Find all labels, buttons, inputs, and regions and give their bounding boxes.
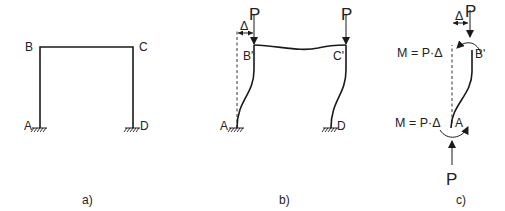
node-label-b: B — [25, 40, 33, 54]
node-label-d: D — [140, 119, 149, 133]
p-delta-diagram: B C A D a) P P Δ — [0, 0, 505, 211]
delta-label: Δ — [455, 9, 463, 23]
node-label-a: A — [455, 116, 463, 130]
caption-a: a) — [82, 193, 93, 207]
node-label-b-prime: B' — [475, 47, 485, 61]
panel-a: B C A D a) — [24, 40, 149, 207]
moment-label-bottom: M = P·Δ — [395, 116, 441, 130]
node-label-b-prime: B' — [243, 49, 253, 63]
node-label-a: A — [24, 119, 32, 133]
panel-b: P P Δ B' C' A D b) — [220, 5, 352, 207]
delta-label: Δ — [240, 19, 248, 33]
caption-c: c) — [456, 193, 466, 207]
moment-label-top: M = P·Δ — [397, 46, 443, 60]
load-label-bottom: P — [446, 170, 457, 189]
load-label-left: P — [249, 5, 260, 24]
node-label-a: A — [220, 119, 228, 133]
panel-c: P Δ M = P·Δ M = P·Δ P B' A c) — [395, 2, 485, 207]
fixed-support-d — [124, 128, 140, 132]
moment-arrow-bottom — [440, 127, 468, 137]
load-label-top: P — [465, 2, 476, 21]
caption-b: b) — [279, 193, 290, 207]
load-label-right: P — [341, 5, 352, 24]
node-label-d: D — [337, 119, 346, 133]
node-label-c-prime: C' — [333, 49, 344, 63]
fixed-support-a — [31, 128, 47, 132]
fixed-support-a — [228, 128, 244, 132]
frame-undeformed — [40, 47, 133, 128]
node-label-c: C — [139, 40, 148, 54]
fixed-support-d — [322, 128, 338, 132]
